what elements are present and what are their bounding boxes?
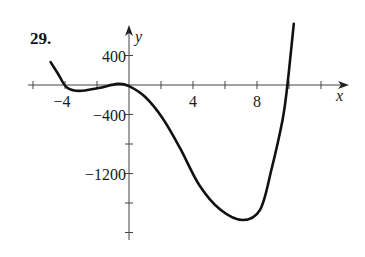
chart: 29. −448 400−400−1200 x y	[0, 0, 365, 257]
y-tick-labels: 400−400−1200	[85, 48, 126, 183]
function-curve	[51, 24, 294, 220]
axes	[28, 25, 349, 240]
y-tick-label: −400	[93, 107, 126, 124]
y-axis-label: y	[133, 28, 143, 46]
x-axis-label: x	[335, 87, 343, 104]
x-tick-label: 4	[189, 93, 197, 110]
y-tick-label: 400	[102, 48, 126, 65]
x-tick-labels: −448	[53, 93, 261, 110]
x-tick-label: −4	[53, 93, 70, 110]
x-tick-label: 8	[253, 93, 261, 110]
problem-number: 29.	[30, 29, 51, 48]
y-tick-label: −1200	[85, 166, 126, 183]
